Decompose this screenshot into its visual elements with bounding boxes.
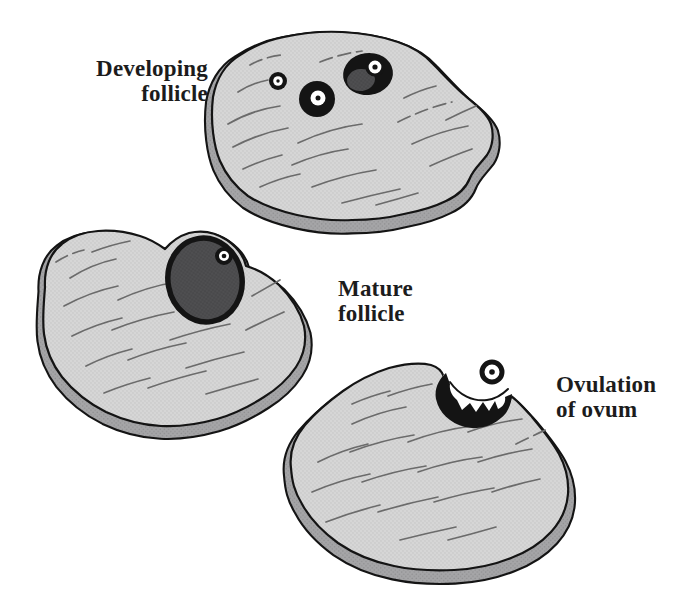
ovum (367, 59, 383, 75)
label-line: of ovum (556, 398, 656, 423)
ovary-mature-follicle (37, 231, 312, 439)
released-ovum (482, 362, 502, 382)
ovary-surface (291, 364, 569, 571)
ovary-ovulation (284, 362, 575, 584)
label-developing-follicle: Developing follicle (96, 57, 208, 106)
secondary-follicle (299, 81, 335, 117)
label-line: Developing (96, 57, 208, 82)
ovary-developing-follicle (205, 32, 500, 234)
ovarian-follicle-diagram: Developing follicle Mature follicle Ovul… (0, 0, 691, 611)
ovum (217, 249, 231, 263)
label-line: follicle (338, 302, 413, 327)
label-line: Ovulation (556, 373, 656, 398)
label-line: follicle (96, 82, 208, 107)
primary-follicle (269, 72, 287, 90)
label-line: Mature (338, 277, 413, 302)
label-ovulation-of-ovum: Ovulation of ovum (556, 373, 656, 422)
label-mature-follicle: Mature follicle (338, 277, 413, 326)
